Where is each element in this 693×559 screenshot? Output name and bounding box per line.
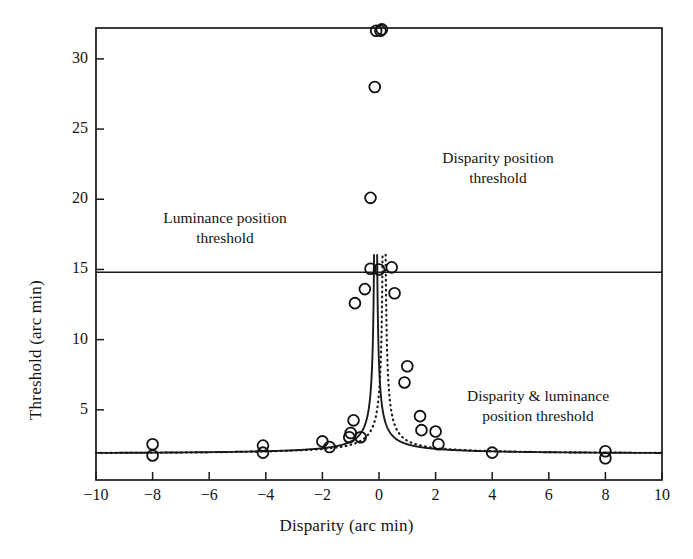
x-tick-label: −8 bbox=[123, 486, 183, 504]
x-tick-label: −6 bbox=[179, 486, 239, 504]
data-point bbox=[433, 439, 444, 450]
data-point bbox=[600, 453, 611, 464]
x-tick-label: 6 bbox=[519, 486, 579, 504]
data-point bbox=[389, 288, 400, 299]
data-point bbox=[365, 192, 376, 203]
y-tick-label: 25 bbox=[48, 119, 88, 137]
data-point bbox=[258, 447, 269, 458]
data-point bbox=[386, 262, 397, 273]
data-point bbox=[430, 426, 441, 437]
x-tick-label: 10 bbox=[632, 486, 692, 504]
annotation-line-1: Luminance position bbox=[110, 208, 340, 228]
annotation-line-2: threshold bbox=[388, 168, 608, 188]
data-point bbox=[369, 82, 380, 93]
x-tick-label: −2 bbox=[292, 486, 352, 504]
annotation-luminance-position-threshold: Luminance position threshold bbox=[110, 208, 340, 249]
data-point bbox=[147, 450, 158, 461]
y-tick-label: 10 bbox=[48, 330, 88, 348]
data-point bbox=[348, 415, 359, 426]
data-point bbox=[359, 284, 370, 295]
data-point bbox=[317, 436, 328, 447]
y-tick-label: 30 bbox=[48, 49, 88, 67]
data-point bbox=[402, 361, 413, 372]
y-axis-title: Threshold (arc min) bbox=[26, 280, 46, 420]
x-axis-title: Disparity (arc min) bbox=[0, 516, 693, 536]
x-tick-label: −4 bbox=[236, 486, 296, 504]
annotation-disparity-position-threshold: Disparity position threshold bbox=[388, 148, 608, 189]
annotation-disparity-and-luminance-position-threshold: Disparity & luminance position threshold bbox=[408, 386, 668, 427]
x-tick-label: −10 bbox=[66, 486, 126, 504]
x-tick-label: 8 bbox=[575, 486, 635, 504]
annotation-line-1: Disparity position bbox=[388, 148, 608, 168]
annotation-line-2: threshold bbox=[110, 228, 340, 248]
data-point bbox=[147, 439, 158, 450]
annotation-line-1: Disparity & luminance bbox=[408, 386, 668, 406]
x-tick-label: 4 bbox=[462, 486, 522, 504]
y-tick-label: 5 bbox=[48, 400, 88, 418]
y-tick-label: 15 bbox=[48, 259, 88, 277]
plot-canvas bbox=[0, 0, 693, 559]
annotation-line-2: position threshold bbox=[408, 406, 668, 426]
chart-figure: Disparity (arc min) Threshold (arc min) … bbox=[0, 0, 693, 559]
x-tick-label: 2 bbox=[406, 486, 466, 504]
data-point bbox=[487, 447, 498, 458]
x-tick-label: 0 bbox=[349, 486, 409, 504]
y-tick-label: 20 bbox=[48, 189, 88, 207]
data-point bbox=[350, 298, 361, 309]
